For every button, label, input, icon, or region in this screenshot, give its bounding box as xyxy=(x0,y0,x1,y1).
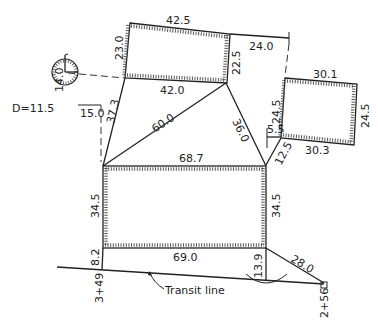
tie-24-label: 24.0 xyxy=(249,40,274,53)
right-building-left-dim: 24.5 xyxy=(270,100,283,125)
top-building-top-dim: 42.5 xyxy=(166,14,191,27)
right-building xyxy=(280,78,357,145)
tie-36-label: 36.0 xyxy=(229,117,251,145)
tie-8-2-line xyxy=(102,248,103,270)
tree-tie-vertical-label: 14.0 xyxy=(53,68,66,93)
transit-line-label: Transit line xyxy=(164,284,225,297)
tie-24-line xyxy=(230,34,289,38)
top-building-right-dim: 22.5 xyxy=(230,51,243,76)
main-building-bottom-dim: 69.0 xyxy=(173,251,198,264)
tie-12-5-label: 12.5 xyxy=(272,140,295,168)
station-right-label: 2+56 xyxy=(318,288,331,318)
tie-5-5-label: 5.5 xyxy=(267,123,285,136)
main-building xyxy=(103,166,266,248)
tree-tie-corner xyxy=(65,54,68,55)
main-building-left-dim: 34.5 xyxy=(89,194,102,219)
tree-diameter-label: D=11.5 xyxy=(12,102,54,115)
survey-diagram: 42.5 23.0 22.5 42.0 24.0 30.1 24.5 24.5 … xyxy=(0,0,378,324)
tie-8-2-label: 8.2 xyxy=(89,249,102,267)
main-building-right-dim: 34.5 xyxy=(270,194,283,219)
tie-60-label: 60.0 xyxy=(149,111,177,135)
projection-dashed-line xyxy=(285,44,289,76)
station-left-label: 3+49 xyxy=(93,273,106,303)
main-building-top-dim: 68.7 xyxy=(179,152,204,165)
tie-37-3-label: 37.3 xyxy=(104,98,122,125)
top-building-left-dim: 23.0 xyxy=(113,36,126,61)
right-building-bottom-dim: 30.3 xyxy=(305,144,330,157)
top-building xyxy=(124,23,230,83)
right-building-top-dim: 30.1 xyxy=(313,68,338,81)
tie-28-label: 28.0 xyxy=(288,252,316,276)
right-building-right-dim: 24.5 xyxy=(359,104,372,129)
tie-13-9-label: 13.9 xyxy=(252,254,265,279)
top-building-bottom-dim: 42.0 xyxy=(160,84,185,97)
transit-leader-arrow xyxy=(150,273,164,289)
